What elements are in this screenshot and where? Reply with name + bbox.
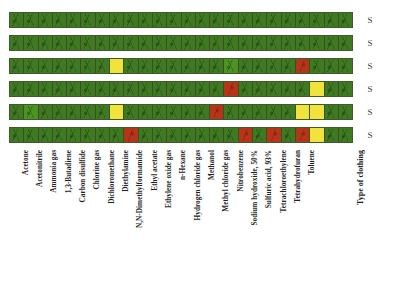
resistance-cell[interactable] bbox=[282, 13, 296, 27]
resistance-cell[interactable] bbox=[110, 13, 124, 27]
resistance-cell[interactable] bbox=[182, 13, 196, 27]
resistance-cell[interactable] bbox=[39, 105, 53, 119]
resistance-cell[interactable] bbox=[325, 105, 339, 119]
resistance-cell[interactable] bbox=[96, 59, 110, 73]
resistance-cell[interactable] bbox=[239, 13, 253, 27]
resistance-cell[interactable] bbox=[325, 128, 339, 142]
resistance-cell[interactable] bbox=[310, 105, 324, 119]
resistance-cell[interactable] bbox=[10, 36, 24, 50]
resistance-cell[interactable] bbox=[24, 13, 38, 27]
resistance-cell[interactable] bbox=[267, 59, 281, 73]
resistance-cell[interactable] bbox=[253, 105, 267, 119]
resistance-cell[interactable] bbox=[267, 105, 281, 119]
resistance-cell[interactable] bbox=[282, 36, 296, 50]
resistance-cell[interactable] bbox=[81, 36, 95, 50]
resistance-cell[interactable] bbox=[167, 128, 181, 142]
resistance-cell[interactable] bbox=[325, 36, 339, 50]
resistance-cell[interactable] bbox=[153, 128, 167, 142]
resistance-cell[interactable] bbox=[53, 128, 67, 142]
resistance-cell[interactable] bbox=[310, 128, 324, 142]
resistance-cell[interactable] bbox=[182, 105, 196, 119]
resistance-cell[interactable] bbox=[24, 128, 38, 142]
resistance-cell[interactable] bbox=[224, 13, 238, 27]
resistance-cell[interactable] bbox=[67, 36, 81, 50]
resistance-cell[interactable] bbox=[81, 13, 95, 27]
resistance-cell[interactable] bbox=[110, 82, 124, 96]
resistance-cell[interactable] bbox=[210, 36, 224, 50]
resistance-cell[interactable] bbox=[253, 128, 267, 142]
resistance-cell[interactable] bbox=[10, 128, 24, 142]
resistance-cell[interactable] bbox=[153, 36, 167, 50]
resistance-cell[interactable] bbox=[310, 13, 324, 27]
resistance-cell[interactable] bbox=[224, 128, 238, 142]
resistance-cell[interactable] bbox=[167, 105, 181, 119]
resistance-cell[interactable] bbox=[39, 82, 53, 96]
resistance-cell[interactable] bbox=[167, 59, 181, 73]
resistance-cell[interactable] bbox=[110, 128, 124, 142]
resistance-cell[interactable] bbox=[310, 82, 324, 96]
resistance-cell[interactable] bbox=[39, 59, 53, 73]
resistance-cell[interactable] bbox=[210, 105, 224, 119]
resistance-cell[interactable] bbox=[67, 82, 81, 96]
resistance-cell[interactable] bbox=[39, 13, 53, 27]
resistance-cell[interactable] bbox=[296, 128, 310, 142]
resistance-cell[interactable] bbox=[10, 105, 24, 119]
resistance-cell[interactable] bbox=[24, 59, 38, 73]
resistance-cell[interactable] bbox=[253, 13, 267, 27]
resistance-cell[interactable] bbox=[224, 59, 238, 73]
resistance-cell[interactable] bbox=[96, 128, 110, 142]
resistance-cell[interactable] bbox=[239, 128, 253, 142]
resistance-cell[interactable] bbox=[153, 105, 167, 119]
resistance-cell[interactable] bbox=[10, 59, 24, 73]
resistance-cell[interactable] bbox=[296, 105, 310, 119]
resistance-cell[interactable] bbox=[325, 59, 339, 73]
resistance-cell[interactable] bbox=[282, 105, 296, 119]
resistance-cell[interactable] bbox=[296, 13, 310, 27]
resistance-cell[interactable] bbox=[253, 36, 267, 50]
resistance-cell[interactable] bbox=[210, 59, 224, 73]
resistance-cell[interactable] bbox=[182, 82, 196, 96]
resistance-cell[interactable] bbox=[339, 105, 352, 119]
resistance-cell[interactable] bbox=[67, 105, 81, 119]
resistance-cell[interactable] bbox=[339, 82, 352, 96]
resistance-cell[interactable] bbox=[53, 82, 67, 96]
resistance-cell[interactable] bbox=[339, 128, 352, 142]
resistance-cell[interactable] bbox=[96, 82, 110, 96]
resistance-cell[interactable] bbox=[139, 128, 153, 142]
resistance-cell[interactable] bbox=[81, 128, 95, 142]
resistance-cell[interactable] bbox=[339, 59, 352, 73]
resistance-cell[interactable] bbox=[339, 13, 352, 27]
resistance-cell[interactable] bbox=[182, 36, 196, 50]
resistance-cell[interactable] bbox=[153, 13, 167, 27]
resistance-cell[interactable] bbox=[24, 105, 38, 119]
resistance-cell[interactable] bbox=[239, 59, 253, 73]
resistance-cell[interactable] bbox=[81, 82, 95, 96]
resistance-cell[interactable] bbox=[139, 105, 153, 119]
resistance-cell[interactable] bbox=[124, 105, 138, 119]
resistance-cell[interactable] bbox=[296, 59, 310, 73]
resistance-cell[interactable] bbox=[267, 36, 281, 50]
resistance-cell[interactable] bbox=[110, 59, 124, 73]
resistance-cell[interactable] bbox=[239, 36, 253, 50]
resistance-cell[interactable] bbox=[167, 13, 181, 27]
resistance-cell[interactable] bbox=[224, 36, 238, 50]
resistance-cell[interactable] bbox=[153, 82, 167, 96]
resistance-cell[interactable] bbox=[96, 105, 110, 119]
resistance-cell[interactable] bbox=[267, 13, 281, 27]
resistance-cell[interactable] bbox=[24, 36, 38, 50]
resistance-cell[interactable] bbox=[282, 59, 296, 73]
resistance-cell[interactable] bbox=[296, 82, 310, 96]
resistance-cell[interactable] bbox=[124, 36, 138, 50]
resistance-cell[interactable] bbox=[253, 59, 267, 73]
resistance-cell[interactable] bbox=[196, 82, 210, 96]
resistance-cell[interactable] bbox=[239, 82, 253, 96]
resistance-cell[interactable] bbox=[110, 105, 124, 119]
resistance-cell[interactable] bbox=[96, 36, 110, 50]
resistance-cell[interactable] bbox=[53, 59, 67, 73]
resistance-cell[interactable] bbox=[139, 59, 153, 73]
resistance-cell[interactable] bbox=[124, 59, 138, 73]
resistance-cell[interactable] bbox=[53, 105, 67, 119]
resistance-cell[interactable] bbox=[196, 105, 210, 119]
resistance-cell[interactable] bbox=[139, 13, 153, 27]
resistance-cell[interactable] bbox=[196, 59, 210, 73]
